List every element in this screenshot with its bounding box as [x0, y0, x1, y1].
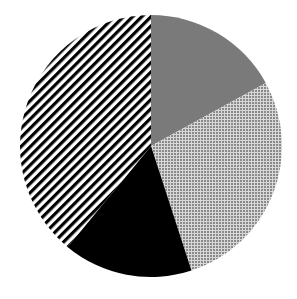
pie-slices: [20, 15, 282, 277]
pie-chart: [0, 0, 297, 299]
